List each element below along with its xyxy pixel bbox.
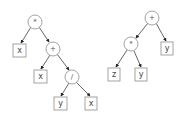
expression-tree-diagram: * x + x / y x (0, 0, 186, 122)
left-tree-nodes: * x + x / y x (13, 15, 97, 110)
node-label: * (33, 18, 37, 26)
edge-n1-n3 (39, 27, 49, 42)
node-label: x (17, 46, 22, 55)
operand-node-x: x (34, 70, 47, 83)
right-tree-nodes: + * y z y (108, 11, 173, 81)
operator-node-multiply: * (124, 37, 138, 51)
edge-n1-n2 (21, 27, 31, 43)
edge-m2-m5 (134, 51, 141, 67)
edge-n3-n5 (57, 54, 69, 70)
operand-node-y: y (135, 68, 147, 81)
operand-node-y: y (161, 42, 173, 55)
node-label: y (165, 44, 170, 53)
edge-n5-n7 (76, 82, 90, 96)
node-label: * (129, 40, 133, 48)
operator-node-divide: / (65, 70, 79, 84)
node-label: x (89, 99, 94, 108)
operand-node-x: x (13, 44, 26, 57)
edge-m2-m4 (116, 50, 127, 67)
node-label: + (50, 45, 56, 53)
node-label: y (139, 70, 144, 79)
operand-node-z: z (108, 68, 120, 81)
edge-m1-m2 (136, 23, 148, 38)
right-tree-edges (116, 23, 166, 67)
edge-n3-n4 (41, 55, 50, 69)
node-label: y (58, 99, 63, 108)
edge-n5-n6 (61, 83, 69, 96)
operand-node-y: y (54, 97, 67, 110)
node-label: z (112, 70, 116, 79)
operator-node-plus: + (46, 42, 60, 56)
edge-m1-m3 (156, 23, 166, 41)
operator-node-plus: + (145, 11, 159, 25)
left-tree-edges (21, 27, 90, 96)
operand-node-x: x (85, 97, 97, 110)
node-label: + (149, 14, 155, 22)
node-label: x (38, 72, 43, 81)
operator-node-multiply: * (28, 15, 42, 29)
